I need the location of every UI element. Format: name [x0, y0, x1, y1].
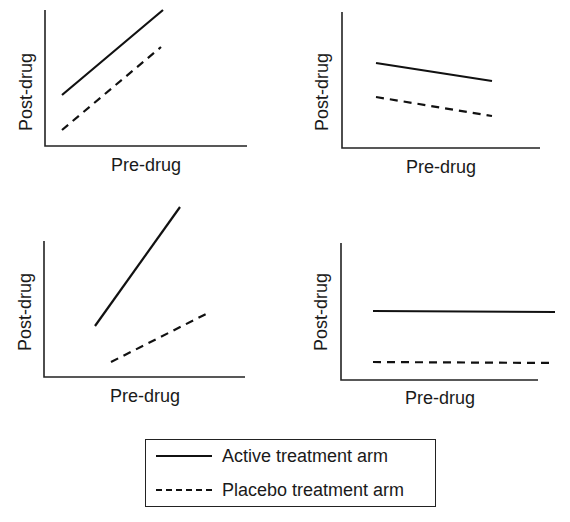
x-axis-label: Pre-drug — [111, 155, 181, 176]
panel-bottom-right — [341, 243, 555, 380]
placebo-line — [62, 47, 161, 130]
active-line — [62, 10, 163, 95]
legend-label: Placebo treatment arm — [222, 480, 404, 501]
y-axis-label: Post-drug — [16, 53, 37, 131]
x-axis-label: Pre-drug — [405, 388, 475, 409]
y-axis-label: Post-drug — [312, 53, 333, 131]
panel-bottom-left — [44, 207, 245, 377]
axes — [44, 241, 245, 377]
active-line — [373, 311, 555, 312]
y-axis-label: Post-drug — [311, 273, 332, 351]
legend: Active treatment arm Placebo treatment a… — [145, 439, 436, 507]
legend-label: Active treatment arm — [222, 446, 388, 467]
panel-top-left — [45, 10, 247, 146]
legend-item-placebo: Placebo treatment arm — [156, 478, 404, 502]
active-line — [376, 63, 492, 81]
placebo-line — [376, 97, 492, 116]
x-axis-label: Pre-drug — [110, 386, 180, 407]
placebo-line — [111, 314, 206, 362]
axes — [342, 12, 540, 148]
legend-item-active: Active treatment arm — [156, 444, 388, 468]
x-axis-label: Pre-drug — [406, 157, 476, 178]
placebo-line — [373, 362, 555, 363]
panel-top-right — [342, 12, 540, 148]
y-axis-label: Post-drug — [15, 273, 36, 351]
axes — [45, 10, 247, 146]
solid-line-swatch — [156, 455, 212, 457]
active-line — [95, 207, 180, 326]
dashed-line-swatch — [156, 489, 212, 491]
